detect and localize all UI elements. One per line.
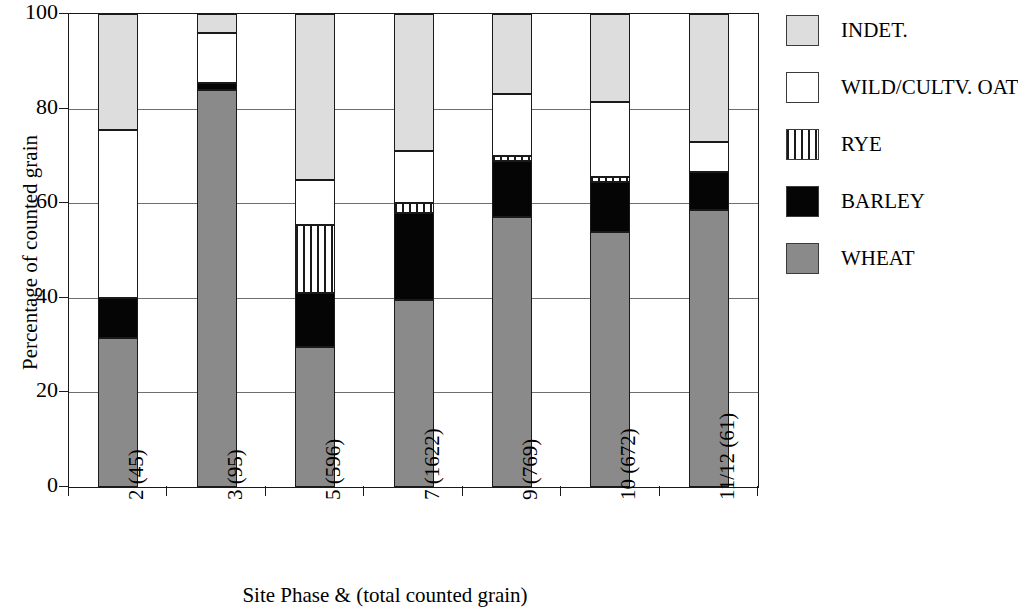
y-tick-label: 40 [0, 285, 58, 307]
barley-segment [295, 293, 335, 347]
rye-swatch [786, 129, 819, 160]
bar [197, 14, 237, 487]
legend-label: WILD/CULTV. OAT [841, 77, 1018, 98]
legend-item: RYE [786, 126, 882, 162]
x-tick-mark [166, 486, 167, 496]
x-tick-mark [659, 486, 660, 496]
y-tick-label: 100 [0, 1, 58, 23]
bar [590, 14, 630, 487]
oat-swatch [786, 72, 819, 103]
x-tick-mark [560, 486, 561, 496]
bar [394, 14, 434, 487]
y-tick-mark [59, 13, 68, 14]
legend-label: BARLEY [841, 191, 925, 212]
wheat-segment [197, 90, 237, 487]
x-tick-label: 10 (672) [618, 428, 639, 500]
indet-segment [590, 14, 630, 102]
y-tick-mark [59, 108, 68, 109]
legend-item: INDET. [786, 12, 908, 48]
rye-segment [295, 225, 335, 294]
wheat-swatch [786, 243, 819, 274]
x-tick-mark [363, 486, 364, 496]
rye-segment [590, 177, 630, 182]
legend-item: WHEAT [786, 240, 914, 276]
bar [98, 14, 138, 487]
x-axis-title: Site Phase & (total counted grain) [0, 583, 770, 608]
barley-segment [590, 182, 630, 232]
indet-segment [98, 14, 138, 130]
rye-segment [394, 203, 434, 212]
oat-segment [590, 102, 630, 178]
oat-segment [689, 142, 729, 173]
oat-segment [295, 180, 335, 225]
y-tick-label: 60 [0, 190, 58, 212]
indet-swatch [786, 15, 819, 46]
x-tick-mark [757, 486, 758, 496]
indet-segment [689, 14, 729, 142]
indet-segment [295, 14, 335, 180]
indet-segment [492, 14, 532, 94]
x-tick-mark [462, 486, 463, 496]
x-tick-mark [68, 486, 69, 496]
x-tick-label: 7 (1622) [422, 428, 443, 500]
y-tick-label: 20 [0, 379, 58, 401]
x-tick-label: 11/12 (61) [717, 413, 738, 500]
x-tick-label: 5 (596) [323, 439, 344, 500]
indet-segment [197, 14, 237, 33]
barley-segment [394, 213, 434, 301]
y-tick-mark [59, 297, 68, 298]
y-tick-mark [59, 202, 68, 203]
x-tick-mark [265, 486, 266, 496]
bar [295, 14, 335, 487]
oat-segment [197, 33, 237, 83]
y-tick-label: 0 [0, 474, 58, 496]
y-tick-label: 80 [0, 96, 58, 118]
legend-label: INDET. [841, 20, 908, 41]
legend-label: WHEAT [841, 248, 914, 269]
bar [492, 14, 532, 487]
y-tick-mark [59, 486, 68, 487]
barley-segment [492, 161, 532, 218]
legend-label: RYE [841, 134, 882, 155]
x-tick-label: 2 (45) [126, 449, 147, 500]
legend-item: BARLEY [786, 183, 925, 219]
x-tick-label: 3 (95) [225, 449, 246, 500]
rye-segment [492, 156, 532, 161]
barley-swatch [786, 186, 819, 217]
indet-segment [394, 14, 434, 151]
oat-segment [98, 130, 138, 298]
y-tick-mark [59, 391, 68, 392]
legend-item: WILD/CULTV. OAT [786, 69, 1018, 105]
barley-segment [98, 298, 138, 338]
oat-segment [394, 151, 434, 203]
x-tick-label: 9 (769) [520, 439, 541, 500]
plot-area [68, 13, 759, 488]
oat-segment [492, 94, 532, 155]
barley-segment [689, 172, 729, 210]
barley-segment [197, 83, 237, 90]
